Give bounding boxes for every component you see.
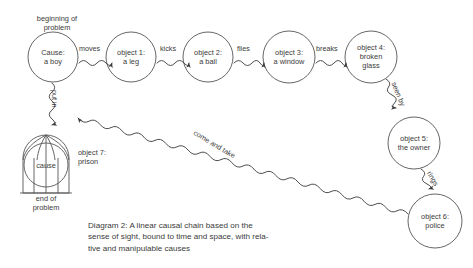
edge-object2-object3: [234, 61, 264, 66]
node-label-object7: object 7: prison: [78, 148, 138, 167]
edge-label-breaks: breaks: [316, 45, 338, 54]
diagram-canvas: Cause: a boy object 1: a leg object 2: a…: [0, 0, 473, 268]
node-cage-object7: [20, 135, 72, 193]
node-circle-object4: [345, 31, 397, 83]
node-circle-object3: [263, 31, 315, 83]
node-circle-object5: [388, 117, 440, 169]
edge-object3-object4: [316, 61, 346, 66]
figure-caption: Diagram 2: A linear causal chain based o…: [88, 220, 388, 254]
edge-label-put-in: put in: [49, 90, 58, 108]
edge-label-kicks: kicks: [160, 45, 176, 54]
node-circle-object2: [183, 32, 233, 82]
edge-label-moves: moves: [79, 45, 100, 54]
annotation-beginning-of-problem: beginning of problem: [22, 14, 92, 33]
annotation-end-of-problem: end of problem: [18, 194, 74, 213]
edge-label-flies: flies: [237, 45, 250, 54]
node-circle-object6: [408, 194, 462, 248]
node-circle-cause: [28, 32, 78, 82]
node-circle-object1: [106, 32, 156, 82]
